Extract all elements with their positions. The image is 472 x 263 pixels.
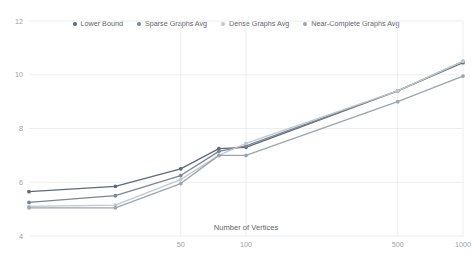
data-point-marker[interactable] <box>244 153 248 157</box>
data-point-marker[interactable] <box>217 149 221 153</box>
data-point-marker[interactable] <box>113 194 117 198</box>
data-point-marker[interactable] <box>179 178 183 182</box>
data-point-marker[interactable] <box>179 174 183 178</box>
y-axis-tick-label: 12 <box>15 17 23 26</box>
data-point-marker[interactable] <box>179 182 183 186</box>
x-axis-tick-label: 1000 <box>455 240 471 249</box>
y-axis-tick-label: 4 <box>19 232 23 241</box>
data-point-marker[interactable] <box>461 59 465 63</box>
data-point-marker[interactable] <box>113 206 117 210</box>
gridlines <box>29 21 463 236</box>
x-axis-tick-label: 100 <box>240 240 252 249</box>
data-point-marker[interactable] <box>27 201 31 205</box>
x-axis-tick-label: 50 <box>177 240 185 249</box>
x-axis-tick-labels: 501005001000 <box>177 240 471 249</box>
plot-area: 4681012 501005001000 Number of Vertices <box>0 0 472 263</box>
x-axis-tick-label: 500 <box>392 240 404 249</box>
data-point-marker[interactable] <box>217 153 221 157</box>
data-point-marker[interactable] <box>27 206 31 210</box>
x-axis-title: Number of Vertices <box>214 223 279 232</box>
data-point-marker[interactable] <box>113 184 117 188</box>
data-point-marker[interactable] <box>244 141 248 145</box>
data-point-marker[interactable] <box>27 190 31 194</box>
y-axis-tick-labels: 4681012 <box>15 17 23 241</box>
chart-container: Lower Bound Sparse Graphs Avg Dense Grap… <box>0 0 472 263</box>
y-axis-tick-label: 6 <box>19 178 23 187</box>
data-point-marker[interactable] <box>461 74 465 78</box>
y-axis-tick-label: 10 <box>15 70 23 79</box>
data-point-marker[interactable] <box>179 167 183 171</box>
data-point-marker[interactable] <box>396 100 400 104</box>
data-point-marker[interactable] <box>396 89 400 93</box>
y-axis-tick-label: 8 <box>19 124 23 133</box>
